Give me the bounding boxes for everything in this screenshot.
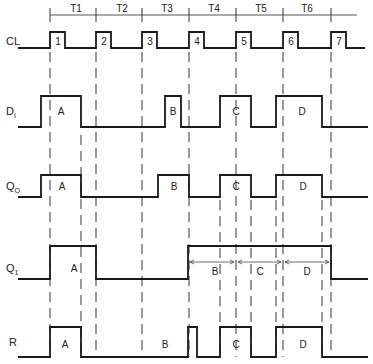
signal-r: R A B C D [9, 327, 368, 357]
clock-pulse-1: 1 [55, 36, 61, 47]
qo-pulse-b: B [171, 181, 178, 192]
signal-label-qo: QO [6, 180, 21, 194]
signal-qo: QO A B C D [6, 175, 368, 197]
signal-label-di: DI [6, 105, 16, 119]
di-pulse-d: D [298, 106, 305, 117]
clock-pulse-6: 6 [288, 36, 294, 47]
di-pulse-b: B [170, 106, 177, 117]
qo-pulse-c: C [232, 181, 239, 192]
q1-span-arrows [190, 260, 329, 264]
clock-pulse-3: 3 [147, 36, 153, 47]
clock-pulse-2: 2 [101, 36, 107, 47]
clock-pulse-5: 5 [241, 36, 247, 47]
clock-pulse-7: 7 [336, 36, 342, 47]
signal-q1: Q1 A B C D [6, 246, 368, 279]
qo-pulse-a: A [59, 181, 66, 192]
period-label-t1: T1 [70, 3, 82, 14]
signal-label-cl: CL [6, 35, 20, 47]
signal-cl: CL 1 2 3 4 5 6 7 [6, 32, 365, 48]
period-label-t6: T6 [301, 3, 313, 14]
period-ruler: T1 T2 T3 T4 T5 T6 [50, 3, 357, 22]
r-pulse-b: B [162, 339, 169, 350]
r-pulse-c: C [232, 339, 239, 350]
di-pulse-c: C [232, 106, 239, 117]
r-pulse-a: A [62, 339, 69, 350]
signal-label-q1: Q1 [6, 262, 19, 276]
di-pulse-a: A [58, 106, 65, 117]
q1-span-d: D [303, 266, 310, 277]
period-label-t5: T5 [255, 3, 267, 14]
signal-label-r: R [9, 336, 17, 348]
guide-lines [50, 52, 331, 357]
q1-span-c: C [256, 266, 263, 277]
timing-diagram-svg: T1 T2 T3 T4 T5 T6 CL 1 2 3 4 5 6 7 DI A [0, 0, 373, 364]
r-pulse-d: D [299, 339, 306, 350]
period-label-t3: T3 [161, 3, 173, 14]
qo-pulse-d: D [299, 181, 306, 192]
clock-pulse-4: 4 [194, 36, 200, 47]
q1-span-b: B [212, 266, 219, 277]
period-label-t2: T2 [116, 3, 128, 14]
timing-diagram: T1 T2 T3 T4 T5 T6 CL 1 2 3 4 5 6 7 DI A [0, 0, 373, 364]
period-label-t4: T4 [208, 3, 220, 14]
signal-di: DI A B C D [6, 96, 368, 127]
q1-pulse-a: A [71, 263, 78, 274]
